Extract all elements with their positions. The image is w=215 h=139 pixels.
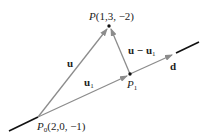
label-vector-u: u — [67, 57, 73, 69]
vector-d-arrow — [130, 55, 172, 74]
point-P — [107, 24, 110, 27]
vector-u1-arrow — [38, 76, 127, 117]
vector-u-arrow — [38, 29, 107, 117]
point-P1 — [128, 72, 131, 75]
label-point-P0: P0(2,0, −1) — [36, 120, 86, 134]
label-point-P1: P1 — [126, 78, 138, 92]
diagram-canvas: P(1,3, −2) P0(2,0, −1) P1 u u1 u − u1 d — [0, 0, 215, 139]
line-segment-left — [9, 117, 38, 131]
line-segment-right — [176, 42, 199, 53]
label-point-P: P(1,3, −2) — [88, 10, 134, 23]
label-vector-u1: u1 — [84, 76, 94, 90]
label-vector-d: d — [170, 60, 176, 72]
label-vector-u-minus-u1: u − u1 — [128, 44, 156, 58]
